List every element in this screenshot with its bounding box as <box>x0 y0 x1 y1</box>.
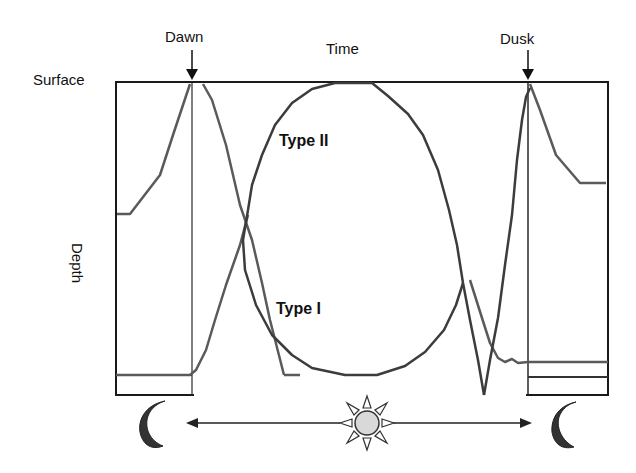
depth-axis-label: Depth <box>69 243 86 283</box>
right-moon-icon <box>552 402 576 448</box>
type-ii-label: Type II <box>279 132 329 150</box>
sun-icon <box>340 396 394 450</box>
type-ii-curve <box>248 83 484 395</box>
diagram-canvas: Dawn Time Dusk Surface Depth Type II Typ… <box>0 0 636 473</box>
plot-frame <box>116 82 608 395</box>
dusk-arrow-icon <box>522 69 534 80</box>
left-moon-icon <box>140 401 165 448</box>
diagram-graphic <box>0 0 636 473</box>
dawn-label: Dawn <box>165 28 203 45</box>
type-ii-bowl <box>243 210 463 375</box>
type-i-label: Type I <box>276 300 321 318</box>
time-label: Time <box>326 40 359 57</box>
dusk-label: Dusk <box>500 30 534 47</box>
surface-label: Surface <box>33 71 85 88</box>
dawn-arrow-icon <box>186 69 198 80</box>
